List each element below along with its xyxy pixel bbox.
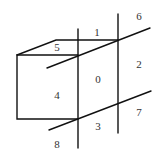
cube-top-face [17, 40, 118, 55]
region-label-2: 2 [136, 58, 142, 70]
region-label-5: 5 [54, 41, 60, 53]
cube-diagram: 1 6 5 2 0 4 7 3 8 [0, 0, 163, 157]
region-label-7: 7 [136, 106, 142, 118]
cube-front-face [17, 55, 78, 119]
region-label-6: 6 [136, 10, 142, 22]
region-label-0: 0 [95, 73, 101, 85]
region-label-3: 3 [95, 120, 101, 132]
region-label-1: 1 [94, 26, 100, 38]
region-label-8: 8 [54, 138, 60, 150]
region-label-4: 4 [54, 89, 60, 101]
